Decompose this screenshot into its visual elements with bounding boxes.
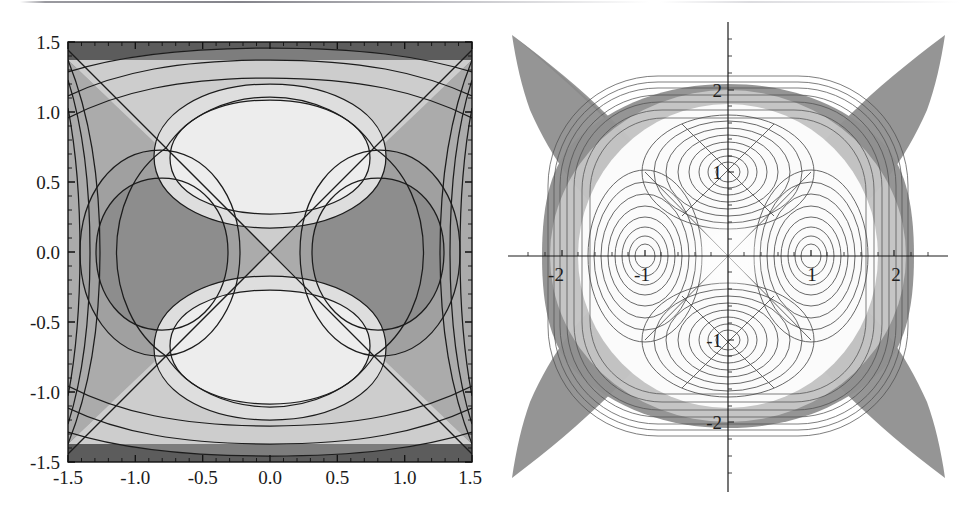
x-tick-label: 1.5: [458, 467, 482, 488]
y-axis-tick-labels-left: 1.5 1.0 0.5 0.0 -0.5 -1.0 -1.5: [30, 32, 60, 473]
x-tick-label: -2: [548, 264, 564, 285]
contour-lobe-bottom-group: [154, 276, 386, 420]
x-tick-label: -1: [634, 264, 650, 285]
y-tick-label: -1.5: [30, 452, 60, 473]
x-tick-label: 1: [807, 264, 817, 285]
x-tick-label: 0.0: [258, 467, 282, 488]
y-tick-label: 1.5: [36, 32, 60, 53]
x-tick-label: -0.5: [188, 467, 218, 488]
dense-contour-plot-svg: -2 -1 1 2 2 1 -1 -2: [490, 0, 979, 513]
y-tick-label: 0.0: [36, 242, 60, 263]
panel-left-filled-contour: -1.5 -1.0 -0.5 0.0 0.5 1.0 1.5 1.5 1.0 0…: [0, 0, 490, 513]
y-tick-label: -0.5: [30, 312, 60, 333]
y-tick-label: -1: [706, 330, 722, 351]
panel-right-dense-contour: -2 -1 1 2 2 1 -1 -2: [490, 0, 979, 513]
x-tick-label: 1.0: [393, 467, 417, 488]
y-tick-label: -1.0: [30, 382, 60, 403]
contour-lobe-bottom-inner: [170, 290, 370, 404]
x-tick-label: 0.5: [325, 467, 349, 488]
y-tick-label: 0.5: [36, 172, 60, 193]
contour-lobe-top-inner: [170, 100, 370, 214]
x-tick-label: 2: [891, 264, 901, 285]
x-tick-label: -1.0: [120, 467, 150, 488]
x-axis-tick-labels-left: -1.5 -1.0 -0.5 0.0 0.5 1.0 1.5: [53, 467, 482, 488]
figure-container: -1.5 -1.0 -0.5 0.0 0.5 1.0 1.5 1.5 1.0 0…: [0, 0, 979, 513]
filled-contour-plot-svg: -1.5 -1.0 -0.5 0.0 0.5 1.0 1.5 1.5 1.0 0…: [0, 0, 490, 513]
y-tick-label: 1: [713, 162, 723, 183]
y-tick-label: 2: [713, 80, 723, 101]
y-tick-label: 1.0: [36, 102, 60, 123]
y-tick-label: -2: [706, 412, 722, 433]
